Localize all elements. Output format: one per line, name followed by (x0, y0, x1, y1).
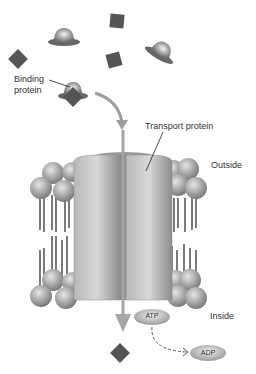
atp-label: ATP (140, 312, 164, 319)
adp-label: ADP (196, 349, 220, 356)
binding-protein-free (48, 28, 80, 46)
binding-protein-with-substrate (58, 82, 88, 107)
binding-protein-tilted (143, 35, 180, 67)
binding-protein-label-1: Binding (14, 74, 44, 85)
transport-protein-label: Transport protein (145, 121, 213, 132)
inside-label: Inside (210, 311, 234, 322)
binding-protein-label-2: protein (14, 85, 42, 96)
binding-protein-leader (49, 80, 70, 87)
outside-label: Outside (211, 160, 242, 171)
entry-arrow (95, 93, 122, 122)
hydrolysis-arrow (152, 327, 186, 352)
